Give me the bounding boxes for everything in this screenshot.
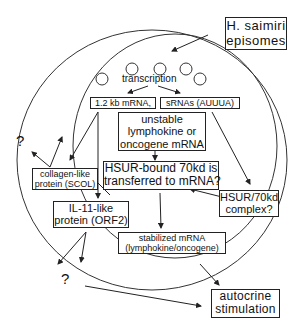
episomes-box: H. saimiri episomes [225, 17, 287, 50]
unstable-line1: unstable [119, 113, 205, 125]
unstable-mrna-box: unstable lymphokine or oncogene mRNA [118, 112, 206, 151]
mrna-box: 1.2 kb mRNA, [90, 97, 156, 109]
autocrine-box: autocrine stimulation [211, 289, 280, 318]
stabilized-mrna-box: stabilized mRNA (lymphokine/oncogene) [118, 232, 226, 254]
autocrine-line1: autocrine [212, 290, 279, 303]
hsur-bound-box: HSUR-bound 70kd is transferred to mRNA? [103, 161, 219, 190]
transcription-label: transcription [122, 73, 176, 84]
question-mark-top: ? [16, 132, 24, 149]
stabilized-line1: stabilized mRNA [119, 233, 225, 243]
episomes-label-line1: H. saimiri [226, 19, 286, 34]
hsur-complex-line2: complex? [220, 203, 278, 215]
stabilized-line2: (lymphokine/oncogene) [119, 243, 225, 253]
il11-line2: protein (ORF2) [54, 214, 128, 226]
hsur-bound-line2: transferred to mRNA? [104, 175, 218, 188]
il11-box: IL-11-like protein (ORF2) [53, 201, 129, 228]
hsur-bound-line1: HSUR-bound 70kd is [104, 162, 218, 175]
srnas-box: sRNAs (AUUUA) [160, 97, 240, 109]
autocrine-line2: stimulation [212, 303, 279, 316]
episomes-label-line2: episomes [226, 34, 286, 49]
collagen-box: collagen-like protein (SCOL) [32, 168, 98, 190]
question-mark-bottom: ? [61, 270, 69, 287]
unstable-line2: lymphokine or [119, 125, 205, 137]
collagen-line1: collagen-like [33, 169, 97, 179]
hsur-complex-box: HSUR/70kd complex? [219, 190, 279, 217]
collagen-line2: protein (SCOL) [33, 179, 97, 189]
hsur-complex-line1: HSUR/70kd [220, 191, 278, 203]
unstable-line3: oncogene mRNA [119, 138, 205, 150]
il11-line1: IL-11-like [54, 202, 128, 214]
